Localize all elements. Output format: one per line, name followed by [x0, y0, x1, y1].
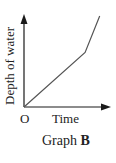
caption-prefix: Graph [42, 133, 77, 148]
graph-b: Depth of water O Time Graph B [0, 0, 116, 163]
caption-letter: B [81, 133, 90, 148]
x-axis-arrow-icon [101, 104, 111, 111]
graph-caption: Graph B [42, 133, 90, 149]
depth-line [24, 16, 100, 107]
x-axis-label: Time [52, 111, 79, 127]
y-axis-arrow-icon [21, 14, 28, 24]
origin-label: O [20, 111, 29, 127]
y-axis-label: Depth of water [2, 27, 18, 105]
